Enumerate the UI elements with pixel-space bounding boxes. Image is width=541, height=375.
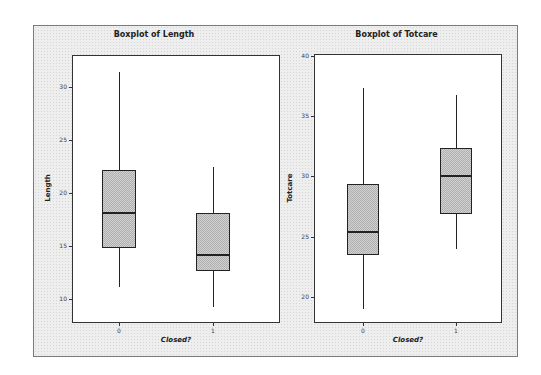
boxplot-totcare-panel: Boxplot of Totcare 2025303540Totcare01Cl… — [274, 26, 519, 356]
box-iqr — [196, 213, 230, 271]
y-tick-mark — [69, 299, 72, 300]
x-tick-label: 0 — [114, 327, 124, 334]
median-line — [196, 254, 230, 256]
y-tick-label: 25 — [51, 136, 67, 143]
x-tick-label: 1 — [451, 327, 461, 334]
median-line — [440, 175, 472, 177]
median-line — [102, 212, 136, 214]
y-tick-mark — [311, 116, 314, 117]
y-tick-mark — [69, 193, 72, 194]
y-tick-label: 40 — [293, 52, 309, 59]
y-tick-label: 20 — [293, 293, 309, 300]
x-tick-mark — [213, 323, 214, 326]
y-axis-label: Totcare — [286, 168, 294, 208]
y-tick-label: 30 — [51, 83, 67, 90]
x-tick-label: 1 — [208, 327, 218, 334]
y-tick-mark — [69, 87, 72, 88]
y-tick-label: 20 — [51, 189, 67, 196]
y-tick-label: 35 — [293, 112, 309, 119]
x-axis-label: Closed? — [388, 336, 428, 344]
x-axis-label: Closed? — [156, 336, 196, 344]
y-tick-mark — [69, 140, 72, 141]
y-tick-mark — [311, 176, 314, 177]
y-tick-label: 30 — [293, 172, 309, 179]
chart-title: Boxplot of Totcare — [274, 30, 519, 39]
y-tick-mark — [311, 56, 314, 57]
y-tick-mark — [69, 246, 72, 247]
boxplot-length-panel: Boxplot of Length 1015202530Length01Clos… — [34, 26, 274, 356]
y-tick-label: 10 — [51, 295, 67, 302]
x-tick-mark — [456, 323, 457, 326]
y-tick-mark — [311, 297, 314, 298]
chart-title: Boxplot of Length — [34, 30, 274, 39]
y-tick-label: 15 — [51, 242, 67, 249]
x-tick-label: 0 — [358, 327, 368, 334]
y-axis-label: Length — [44, 168, 52, 208]
y-tick-mark — [311, 237, 314, 238]
median-line — [347, 231, 379, 233]
y-tick-label: 25 — [293, 233, 309, 240]
chart-frame: Boxplot of Length 1015202530Length01Clos… — [33, 25, 518, 357]
plot-area — [314, 54, 502, 323]
x-tick-mark — [363, 323, 364, 326]
box-iqr — [440, 148, 472, 214]
x-tick-mark — [119, 323, 120, 326]
box-iqr — [347, 184, 379, 255]
box-iqr — [102, 170, 136, 247]
